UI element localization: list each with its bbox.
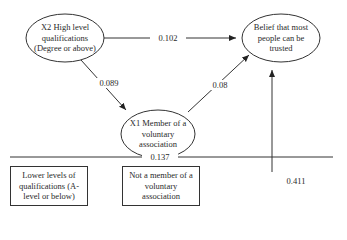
not-member-box: Not a member of a voluntary association bbox=[122, 166, 200, 206]
belief-node-label: Belief that most people can be trusted bbox=[246, 20, 316, 56]
coef-x2-to-belief: 0.102 bbox=[150, 33, 186, 43]
coef-x2-to-x1: 0.089 bbox=[92, 78, 126, 88]
coef-intercept: 0.411 bbox=[281, 176, 311, 186]
lower-qualifications-box: Lower levels of qualifications (A-level … bbox=[10, 166, 88, 206]
x2-node-label: X2 High level qualifications (Degree or … bbox=[30, 20, 100, 56]
x1-node-label: X1 Member of a voluntary association bbox=[124, 116, 192, 152]
coef-baseline: 0.137 bbox=[142, 152, 178, 162]
coef-x1-to-belief: 0.08 bbox=[205, 80, 235, 90]
